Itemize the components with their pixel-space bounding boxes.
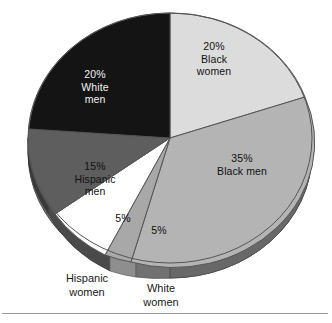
caption-white-women-line1: White [126,282,196,296]
caption-hispanic-women: Hispanic women [48,272,126,299]
footer-divider [2,313,328,314]
caption-hispanic-women-line1: Hispanic [48,272,126,286]
caption-hispanic-women-line2: women [48,286,126,300]
pie-chart-graphic [0,0,332,300]
caption-white-women-line2: women [126,296,196,310]
slice-white-men [29,13,170,138]
caption-white-women: White women [126,282,196,309]
pie-chart-figure: 20% Black women 20% White men 35% Black … [0,0,332,323]
